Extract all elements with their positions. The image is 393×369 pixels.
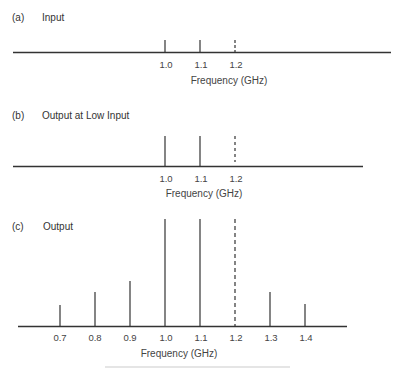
panel-c-tick-1-2: 1.2 bbox=[229, 332, 242, 343]
panel-c-tick-1-4: 1.4 bbox=[299, 332, 312, 343]
panel-c-xlabel: Frequency (GHz) bbox=[141, 348, 218, 359]
panel-c-tag: (c) bbox=[12, 221, 24, 232]
panel-a-tag: (a) bbox=[12, 12, 24, 23]
panel-c-tick-1-1: 1.1 bbox=[194, 332, 207, 343]
panel-b-tick-1-1: 1.1 bbox=[194, 173, 207, 184]
panel-a-title: Input bbox=[42, 12, 64, 23]
panel-c-tick-0-9: 0.9 bbox=[123, 332, 136, 343]
panel-c-title: Output bbox=[43, 221, 73, 232]
panel-c-tick-1-3: 1.3 bbox=[264, 332, 277, 343]
panel-a-tick-1-0: 1.0 bbox=[159, 59, 172, 70]
panel-a-tick-1-1: 1.1 bbox=[194, 59, 207, 70]
panel-b-tick-1-2: 1.2 bbox=[229, 173, 242, 184]
panel-c-tick-0-8: 0.8 bbox=[88, 332, 101, 343]
panel-b-xlabel: Frequency (GHz) bbox=[166, 188, 243, 199]
spectrum-figure: (a) Input 1.0 1.1 1.2 Frequency (GHz) (b… bbox=[0, 0, 393, 369]
panel-b-tick-1-0: 1.0 bbox=[159, 173, 172, 184]
panel-c-tick-0-7: 0.7 bbox=[53, 332, 66, 343]
panel-c-tick-1-0: 1.0 bbox=[159, 332, 172, 343]
cropped-caption bbox=[105, 366, 290, 368]
panel-a: (a) Input 1.0 1.1 1.2 Frequency (GHz) bbox=[12, 12, 391, 86]
panel-b-title: Output at Low Input bbox=[42, 110, 130, 121]
panel-b: (b) Output at Low Input 1.0 1.1 1.2 Freq… bbox=[12, 110, 363, 199]
panel-a-xlabel: Frequency (GHz) bbox=[191, 75, 268, 86]
panel-b-tag: (b) bbox=[12, 110, 24, 121]
panel-a-tick-1-2: 1.2 bbox=[229, 59, 242, 70]
panel-c: (c) Output 0.7 0.8 0.9 1.0 1.1 1.2 1.3 1… bbox=[12, 219, 347, 359]
